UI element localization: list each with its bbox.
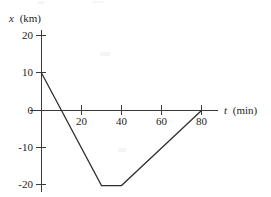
position-time-graph-figure: 20 10 0 -10 -20 20 40 60 80 x (km) t (mi… [0,0,271,197]
y-axis-title: x (km) [8,12,41,25]
x-axis-title: t (min) [224,104,258,117]
x-tick-label-40: 40 [116,115,128,127]
y-tick-label-0: 0 [28,104,34,116]
data-series-position [42,73,202,186]
y-tick-label-10: 10 [22,66,34,78]
y-axis-title-var: x [8,12,14,24]
y-tick-label-neg10: -10 [18,141,33,153]
y-tick-label-20: 20 [22,29,34,41]
x-tick-label-20: 20 [76,115,88,127]
x-axis-title-var: t [224,104,228,116]
y-tick-label-neg20: -20 [18,178,33,190]
x-axis-title-unit: (min) [233,104,258,117]
chart-canvas: 20 10 0 -10 -20 20 40 60 80 x (km) t (mi… [0,0,271,197]
x-tick-label-80: 80 [196,115,208,127]
y-axis-title-unit: (km) [20,12,42,25]
x-tick-label-60: 60 [156,115,168,127]
